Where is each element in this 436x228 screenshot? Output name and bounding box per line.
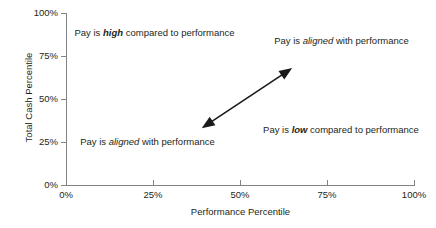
arrow-head <box>202 117 216 129</box>
x-tick-label: 50% <box>230 190 249 200</box>
arrow-head <box>278 68 292 80</box>
x-tick-label: 0% <box>59 190 73 200</box>
y-tick-mark <box>61 13 66 14</box>
annotation-pay-aligned-top: Pay is aligned with performance <box>249 35 434 48</box>
y-axis-line <box>66 13 67 186</box>
y-tick-label: 0% <box>44 180 58 190</box>
annotation-pay-aligned-bottom: Pay is aligned with performance <box>60 136 235 149</box>
x-tick-label: 100% <box>402 190 426 200</box>
annotation-emphasis: aligned <box>303 35 334 46</box>
y-tick-label: 50% <box>39 94 58 104</box>
arrow-shaft <box>210 74 284 123</box>
x-axis-title: Performance Percentile <box>66 206 415 217</box>
y-tick-label: 25% <box>39 137 58 147</box>
y-axis-title: Total Cash Percentile <box>23 18 34 178</box>
x-tick-mark <box>327 180 328 185</box>
x-tick-mark <box>66 180 67 185</box>
x-tick-label: 75% <box>317 190 336 200</box>
annotation-pay-low: Pay is low compared to performance <box>256 124 426 137</box>
x-tick-mark <box>414 180 415 185</box>
annotation-emphasis: high <box>103 27 123 38</box>
annotation-emphasis: aligned <box>109 136 140 147</box>
y-tick-mark <box>61 56 66 57</box>
y-tick-mark <box>61 185 66 186</box>
annotation-emphasis: low <box>292 124 308 135</box>
annotation-pay-high: Pay is high compared to performance <box>72 27 237 40</box>
y-tick-label: 75% <box>39 51 58 61</box>
pay-vs-performance-chart: 100%75%50%25%0% 0%25%50%75%100% Total Ca… <box>0 0 436 228</box>
x-tick-label: 25% <box>143 190 162 200</box>
x-tick-mark <box>153 180 154 185</box>
y-tick-label: 100% <box>34 8 58 18</box>
x-axis-line <box>66 185 415 186</box>
x-tick-mark <box>240 180 241 185</box>
y-tick-mark <box>61 99 66 100</box>
